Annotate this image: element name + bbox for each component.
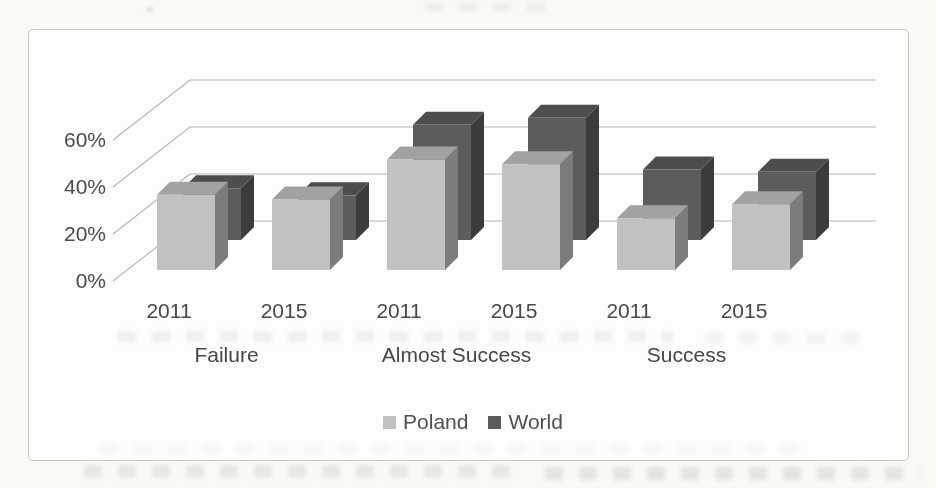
y-tick-label-0: 0%: [76, 269, 106, 292]
x-category-label-5: 2015: [721, 299, 768, 322]
x-category-label-4: 2011: [606, 299, 651, 322]
scan-bleed-artifact: [545, 467, 920, 480]
bar-poland-almost-success-2015: [502, 164, 560, 270]
bar-poland-failure-2011-side-face: [215, 182, 228, 270]
scan-bleed-artifact: [425, 3, 555, 11]
bar-poland-almost-success-2015-side-face: [560, 151, 573, 270]
chart-legend: Poland World: [0, 410, 936, 434]
scan-bleed-artifact: [118, 331, 673, 342]
y-tick-label-20: 20%: [64, 222, 106, 245]
x-group-label-success: Success: [647, 343, 726, 366]
legend-item-world: World: [488, 410, 562, 434]
legend-label-world: World: [508, 410, 562, 434]
legend-item-poland: Poland: [383, 410, 468, 434]
bar-poland-almost-success-2011-side-face: [445, 147, 458, 270]
gridline-60: [113, 80, 876, 140]
y-tick-label-40: 40%: [64, 175, 106, 198]
scan-bleed-artifact: [100, 444, 800, 454]
bar-world-success-2011-side-face: [701, 157, 714, 241]
legend-label-poland: Poland: [403, 410, 468, 434]
scanned-page: 0%20%40%60%201120152011201520112015Failu…: [0, 0, 936, 488]
bar-poland-success-2015: [732, 204, 790, 270]
scan-speck-artifact: [146, 7, 154, 12]
bar-world-almost-success-2011-side-face: [471, 112, 484, 240]
bar-world-success-2015-side-face: [816, 159, 829, 240]
x-category-label-1: 2015: [261, 299, 308, 322]
bar-world-almost-success-2015-side-face: [586, 105, 599, 240]
x-group-label-almost-success: Almost Success: [382, 343, 531, 366]
x-category-label-3: 2015: [491, 299, 538, 322]
bar-poland-failure-2011: [157, 195, 215, 270]
x-category-label-2: 2011: [376, 299, 421, 322]
legend-swatch-world: [488, 416, 501, 429]
legend-swatch-poland: [383, 416, 396, 429]
scan-bleed-artifact: [705, 333, 870, 343]
y-tick-label-60: 60%: [64, 128, 106, 151]
scan-bleed-artifact: [84, 465, 514, 478]
x-category-label-0: 2011: [146, 299, 191, 322]
bar-poland-failure-2015-side-face: [330, 187, 343, 271]
bar-poland-success-2011: [617, 218, 675, 270]
bar-poland-almost-success-2011: [387, 160, 445, 270]
x-group-label-failure: Failure: [194, 343, 258, 366]
bar-poland-success-2015-side-face: [790, 191, 803, 270]
bar-poland-failure-2015: [272, 200, 330, 271]
